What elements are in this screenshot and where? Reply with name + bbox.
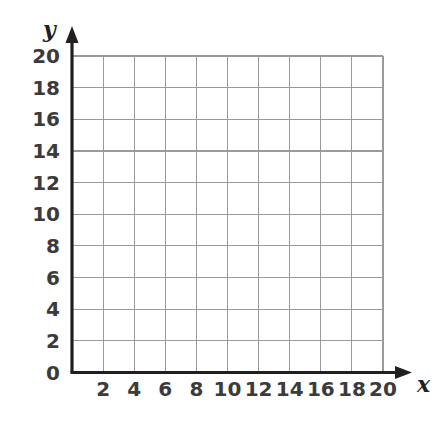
y-tick-label: 2 [46, 329, 60, 353]
coordinate-grid-figure: 20181614121086420 2468101214161820 y x [0, 0, 445, 426]
x-tick-label: 4 [127, 377, 141, 401]
y-tick-label: 4 [46, 297, 60, 321]
y-tick-label: 12 [32, 171, 60, 195]
x-tick-label: 8 [189, 377, 203, 401]
x-tick-label: 6 [158, 377, 172, 401]
x-tick-label: 10 [214, 377, 242, 401]
x-tick-label: 20 [369, 377, 397, 401]
y-tick-label: 6 [46, 266, 60, 290]
x-tick-label: 2 [96, 377, 110, 401]
x-axis-label: x [416, 371, 431, 397]
x-tick-label: 16 [307, 377, 335, 401]
y-tick-label: 20 [32, 44, 60, 68]
y-tick-label: 16 [32, 107, 60, 131]
y-tick-label: 14 [32, 139, 60, 163]
y-tick-label: 0 [46, 361, 60, 385]
y-tick-label: 8 [46, 234, 60, 258]
x-tick-label: 14 [276, 377, 304, 401]
y-tick-label: 10 [32, 202, 60, 226]
figure-background [0, 0, 445, 426]
x-tick-label: 18 [338, 377, 366, 401]
graph-canvas: 20181614121086420 2468101214161820 y x [0, 0, 445, 426]
y-axis-label: y [42, 16, 58, 42]
y-tick-label: 18 [32, 76, 60, 100]
x-tick-label: 12 [245, 377, 273, 401]
